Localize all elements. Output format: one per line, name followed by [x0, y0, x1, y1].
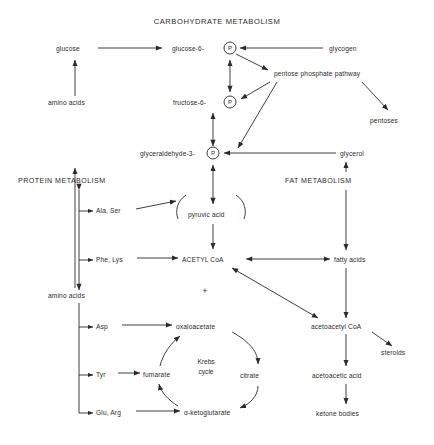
- node-phe-lys: Phe, Lys: [96, 256, 123, 264]
- section-heading-fat-metabolism: FAT METABOLISM: [285, 177, 352, 185]
- section-heading-protein-metabolism: PROTEIN METABOLISM: [18, 177, 106, 185]
- node-pentose-phosphate-pathway: pentose phosphate pathway: [274, 70, 361, 78]
- node-acetyl-coa: ACETYL CoA: [182, 256, 224, 263]
- krebs-arc-oxaloacetate-to-citrate: [232, 332, 258, 364]
- node-glycerol: glycerol: [340, 150, 364, 158]
- edge-acetoacetyl-coa-to-steroids: [372, 332, 392, 346]
- node-tyr: Tyr: [96, 371, 106, 379]
- krebs-arc-fumarate-to-oxaloacetate: [160, 336, 180, 366]
- node-ala-ser: Ala, Ser: [96, 207, 121, 214]
- edge-ala-ser-to-pyruvic-acid: [136, 201, 176, 209]
- node-glucose: glucose: [56, 45, 80, 53]
- node-fatty-acids: fatty acids: [334, 256, 366, 264]
- edge-pentose-pathway-to-pentoses: [362, 82, 388, 110]
- krebs-arc-citrate-to-alpha-ketoglutarate: [240, 386, 258, 408]
- node-citrate: citrate: [240, 372, 259, 379]
- phosphate-label-fructose6p: P: [228, 98, 232, 105]
- plus-symbol: +: [202, 286, 207, 296]
- metabolism-diagram-page: CARBOHYDRATE METABOLISM glucose glucose-…: [0, 0, 434, 445]
- pyruvate-right-paren: [236, 195, 245, 219]
- node-fumarate: fumarate: [143, 371, 170, 378]
- node-fructose-6-phosphate: fructose-6-: [173, 99, 206, 106]
- page-title: CARBOHYDRATE METABOLISM: [154, 17, 281, 26]
- node-glyceraldehyde-3-phosphate: glyceraldehyde-3-: [140, 150, 195, 158]
- edge-pentose-pathway-to-glyceraldehyde3p: [238, 82, 277, 148]
- edge-glucose6p-to-pentose-pathway: [236, 54, 268, 70]
- node-pyruvic-acid: pyruvic acid: [188, 211, 225, 219]
- node-amino-acids-top: amino acids: [48, 99, 85, 106]
- edge-acetyl-coa-acetoacetyl-coa-double: [232, 268, 318, 318]
- node-glu-arg: Glu, Arg: [96, 409, 121, 417]
- krebs-cycle-label-line1: Krebs: [197, 358, 215, 365]
- node-amino-acids-bottom: amino acids: [48, 292, 85, 299]
- phosphate-label-glucose6p: P: [228, 44, 232, 51]
- node-asp: Asp: [96, 323, 108, 331]
- node-glucose-6-phosphate: glucose-6-: [172, 45, 204, 53]
- phosphate-label-glyceraldehyde3p: P: [211, 149, 215, 156]
- metabolism-diagram: CARBOHYDRATE METABOLISM glucose glucose-…: [0, 0, 434, 445]
- node-acetoacetyl-coa: acetoacetyl CoA: [311, 323, 362, 331]
- krebs-arc-alpha-ketoglutarate-to-fumarate: [159, 384, 178, 406]
- node-acetoacetic-acid: acetoacetic acid: [312, 372, 362, 379]
- krebs-cycle-label-line2: cycle: [198, 368, 213, 376]
- node-ketone-bodies: ketone bodies: [316, 410, 360, 417]
- node-glycogen: glycogen: [329, 45, 357, 53]
- node-steroids: steroids: [381, 349, 406, 356]
- node-pentoses: pentoses: [370, 117, 399, 125]
- node-alpha-ketoglutarate: α-ketoglutarate: [184, 409, 231, 417]
- edge-pentose-pathway-to-fructose6p: [241, 82, 270, 99]
- node-oxaloacetate: oxaloacetate: [176, 323, 215, 330]
- pyruvate-left-paren: [177, 195, 186, 219]
